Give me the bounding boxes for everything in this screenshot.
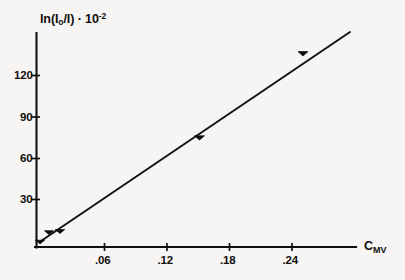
x-axis-label-subscript: MV <box>373 245 387 255</box>
x-tick-label-012: .12 <box>158 255 173 267</box>
x-axis-label: CMV <box>364 240 387 255</box>
y-axis-label-prefix: ln(I <box>40 12 58 26</box>
x-axis-label-base: C <box>364 239 373 253</box>
chart-figure: ln(Io/I) · 10-2 120 90 60 30 .06 .12 .18… <box>0 0 405 280</box>
y-tick-label-90: 90 <box>20 112 32 124</box>
scatter-plot-canvas <box>0 0 405 280</box>
y-axis-label-exponent: -2 <box>99 11 106 21</box>
x-tick-label-024: .24 <box>283 255 298 267</box>
y-axis-label: ln(Io/I) · 10-2 <box>40 12 106 27</box>
y-tick-label-30: 30 <box>20 194 32 206</box>
x-tick-label-006: .06 <box>95 255 110 267</box>
data-point-marker <box>195 136 205 140</box>
y-axis-label-middle: /I) · 10 <box>63 12 98 26</box>
y-tick-label-120: 120 <box>14 70 33 82</box>
data-point-marker <box>298 52 308 56</box>
x-tick-label-018: .18 <box>220 255 235 267</box>
y-tick-label-60: 60 <box>20 153 32 165</box>
